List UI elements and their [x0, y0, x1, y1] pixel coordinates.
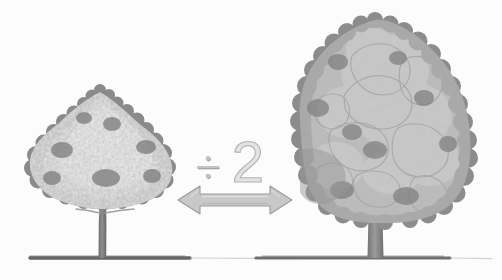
right-tree: [290, 12, 478, 258]
comparison-arrow: [178, 186, 292, 214]
tree-division-illustration: ÷ 2: [0, 0, 502, 280]
left-tree: [24, 84, 176, 258]
scene-canvas: [0, 0, 502, 280]
